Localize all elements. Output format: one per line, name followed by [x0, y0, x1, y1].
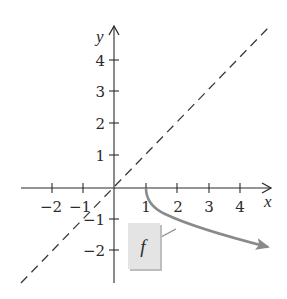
function-f-curve: [146, 188, 268, 247]
y-tick-label-1: 1: [95, 147, 105, 165]
x-tick-label-2: 2: [173, 198, 183, 216]
x-tick-label-4: 4: [235, 198, 245, 216]
y-tick-label-neg2: −2: [83, 242, 105, 260]
x-tick-label-neg2: −2: [40, 198, 62, 216]
x-axis-label: x: [263, 192, 272, 211]
x-tick-label-3: 3: [204, 198, 214, 216]
y-tick-label-2: 2: [95, 115, 105, 133]
function-label-callout: f: [128, 223, 176, 271]
y-axis-label: y: [94, 27, 104, 46]
function-graph: −2 −1 1 2 3 4 4 3 2 1 −1 −2 y x f: [0, 0, 287, 299]
y-tick-label-neg1: −1: [83, 211, 105, 229]
y-tick-label-4: 4: [95, 52, 105, 70]
y-tick-label-3: 3: [95, 83, 105, 101]
